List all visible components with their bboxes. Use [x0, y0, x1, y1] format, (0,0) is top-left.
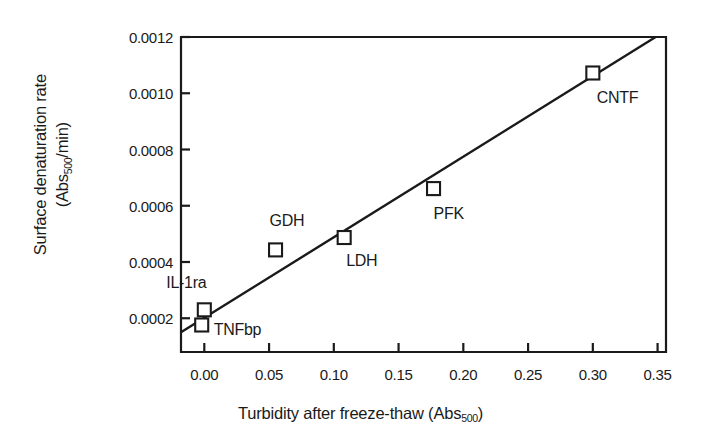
data-marker	[338, 231, 351, 244]
plot-canvas	[0, 0, 721, 447]
data-point-label: LDH	[346, 252, 377, 270]
x-tick-label: 0.35	[644, 366, 672, 383]
data-point-label: TNFbp	[214, 321, 261, 339]
x-tick-label: 0.00	[190, 366, 218, 383]
x-tick-label: 0.30	[579, 366, 607, 383]
data-marker	[269, 243, 282, 256]
data-marker	[427, 182, 440, 195]
regression-line-path	[181, 37, 656, 332]
plot-frame	[181, 37, 666, 352]
x-tick-marks	[204, 343, 657, 352]
y-tick-label: 0.0006	[63, 197, 173, 214]
axes-frame	[181, 37, 666, 352]
data-point-label: IL-1ra	[166, 274, 206, 292]
data-marker	[198, 303, 211, 316]
x-tick-label: 0.05	[255, 366, 283, 383]
y-tick-label: 0.0010	[63, 85, 173, 102]
scatter-plot-figure: Surface denaturation rate (Abs500/min) T…	[0, 0, 721, 447]
y-tick-label: 0.0012	[63, 29, 173, 46]
x-tick-label: 0.20	[449, 366, 477, 383]
x-tick-label: 0.10	[320, 366, 348, 383]
x-tick-label: 0.15	[385, 366, 413, 383]
y-tick-label: 0.0008	[63, 141, 173, 158]
y-tick-label: 0.0002	[63, 310, 173, 327]
data-point-label: CNTF	[597, 89, 638, 107]
regression-line	[181, 37, 656, 332]
x-tick-label: 0.25	[514, 366, 542, 383]
data-marker	[586, 67, 599, 80]
data-point-label: GDH	[270, 212, 305, 230]
y-tick-label: 0.0004	[63, 254, 173, 271]
data-marker	[195, 319, 208, 332]
data-point-label: PFK	[434, 205, 464, 223]
